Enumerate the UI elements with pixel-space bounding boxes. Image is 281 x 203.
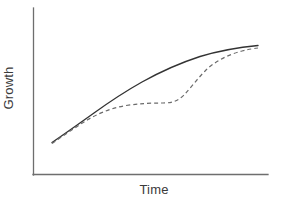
chart-background (0, 0, 281, 203)
growth-over-time-chart: Growth Time (0, 0, 281, 203)
x-axis-label: Time (139, 182, 168, 197)
y-axis-label-text: Growth (1, 66, 16, 109)
plot-area (0, 0, 281, 203)
